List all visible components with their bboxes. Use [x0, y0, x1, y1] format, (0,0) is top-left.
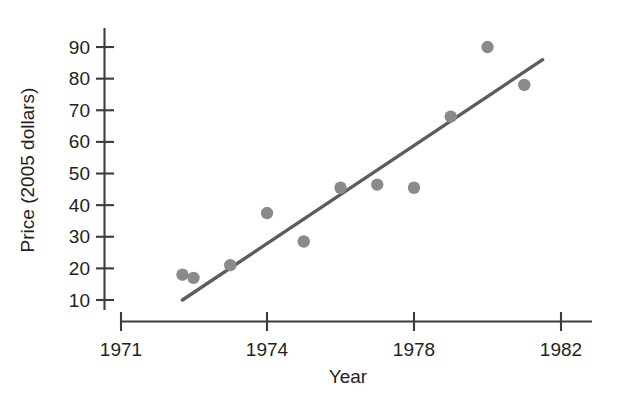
x-tick-label: 1974 — [246, 339, 289, 360]
y-tick-label: 40 — [69, 195, 90, 216]
data-point — [298, 235, 310, 247]
data-point — [187, 272, 199, 284]
data-point — [371, 178, 383, 190]
y-tick-label: 10 — [69, 290, 90, 311]
x-tick-label: 1978 — [393, 339, 435, 360]
data-point — [445, 110, 457, 122]
data-point — [261, 207, 273, 219]
data-point — [518, 79, 530, 91]
chart-background — [0, 0, 618, 396]
x-tick-label: 1982 — [540, 339, 582, 360]
y-axis-title: Price (2005 dollars) — [17, 88, 38, 253]
y-tick-label: 30 — [69, 226, 90, 247]
y-tick-label: 80 — [69, 68, 90, 89]
scatter-plot-figure: 102030405060708090 1971197419781982 Year… — [0, 0, 618, 396]
chart-canvas: 102030405060708090 1971197419781982 Year… — [0, 0, 618, 396]
y-axis-label-group: 102030405060708090 — [69, 37, 90, 311]
x-tick-label: 1971 — [100, 339, 142, 360]
y-tick-label: 20 — [69, 258, 90, 279]
data-point — [176, 269, 188, 281]
x-axis-title: Year — [329, 366, 368, 387]
y-tick-label: 60 — [69, 131, 90, 152]
data-point — [408, 182, 420, 194]
y-tick-label: 90 — [69, 37, 90, 58]
data-point — [224, 259, 236, 271]
data-point — [481, 41, 493, 53]
y-tick-label: 70 — [69, 100, 90, 121]
data-point — [334, 182, 346, 194]
y-tick-label: 50 — [69, 163, 90, 184]
